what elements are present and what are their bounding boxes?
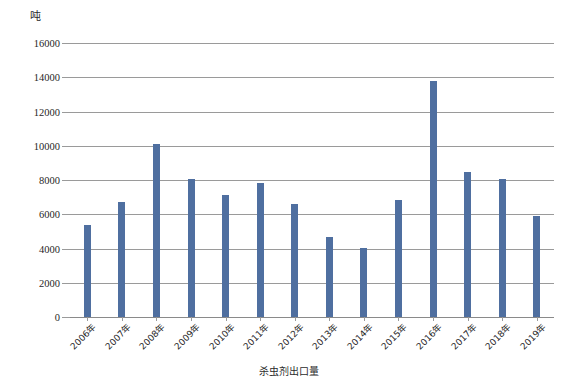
y-axis-tick-label: 10000 — [34, 140, 60, 151]
plot-area — [70, 43, 554, 317]
bar — [395, 200, 402, 317]
x-axis-tick-label: 2015年 — [380, 322, 410, 352]
bar-chart: 吨 0200040006000800010000120001400016000 … — [0, 0, 577, 388]
y-axis-tick-label: 4000 — [39, 243, 60, 254]
bar — [188, 179, 195, 317]
gridline — [70, 249, 554, 250]
bar — [326, 237, 333, 317]
x-axis-tick-label: 2007年 — [103, 322, 133, 352]
x-axis-tick-label: 2006年 — [69, 322, 99, 352]
x-axis-tick-label: 2010年 — [207, 322, 237, 352]
x-axis-tick-label: 2014年 — [345, 322, 375, 352]
x-axis-tick-label: 2016年 — [414, 322, 444, 352]
y-axis-tick-labels: 0200040006000800010000120001400016000 — [0, 43, 64, 317]
bar — [430, 81, 437, 317]
bar — [464, 172, 471, 317]
bar — [84, 225, 91, 317]
y-axis-tick-mark — [62, 112, 70, 113]
x-axis-tick-label: 2011年 — [242, 322, 272, 352]
bar — [257, 183, 264, 317]
y-axis-tick-label: 14000 — [34, 72, 60, 83]
x-axis-tick-label: 2019年 — [518, 322, 548, 352]
x-axis-tick-label: 2013年 — [311, 322, 341, 352]
y-axis-tick-mark — [62, 77, 70, 78]
x-axis-tick-label: 2012年 — [276, 322, 306, 352]
y-axis-tick-mark — [62, 180, 70, 181]
bar — [499, 179, 506, 317]
gridline — [70, 146, 554, 147]
bar — [118, 202, 125, 317]
y-axis-tick-label: 16000 — [34, 38, 60, 49]
bar — [360, 248, 367, 317]
y-axis-tick-label: 6000 — [39, 209, 60, 220]
y-axis-tick-label: 2000 — [39, 277, 60, 288]
gridline — [70, 77, 554, 78]
y-axis-tick-label: 0 — [55, 312, 60, 323]
y-axis-tick-mark — [62, 249, 70, 250]
y-axis-tick-mark — [62, 214, 70, 215]
gridline — [70, 214, 554, 215]
chart-legend: 杀虫剂出口量 — [0, 366, 577, 378]
x-axis-tick-label: 2017年 — [449, 322, 479, 352]
gridline — [70, 283, 554, 284]
bar — [533, 216, 540, 317]
bar — [153, 144, 160, 317]
bar — [222, 195, 229, 317]
gridline — [70, 43, 554, 44]
gridline — [70, 180, 554, 181]
y-axis-tick-mark — [62, 43, 70, 44]
y-axis-tick-label: 12000 — [34, 106, 60, 117]
y-axis-tick-mark — [62, 146, 70, 147]
gridline — [70, 112, 554, 113]
x-axis-tick-label: 2008年 — [138, 322, 168, 352]
y-axis-tick-label: 8000 — [39, 175, 60, 186]
x-axis-tick-label: 2018年 — [484, 322, 514, 352]
bar — [291, 204, 298, 317]
y-axis-unit-label: 吨 — [30, 11, 41, 23]
x-axis-tick-labels: 2006年2007年2008年2009年2010年2011年2012年2013年… — [70, 318, 554, 368]
y-axis-tick-mark — [62, 317, 70, 318]
x-axis-tick-label: 2009年 — [172, 322, 202, 352]
y-axis-tick-mark — [62, 283, 70, 284]
